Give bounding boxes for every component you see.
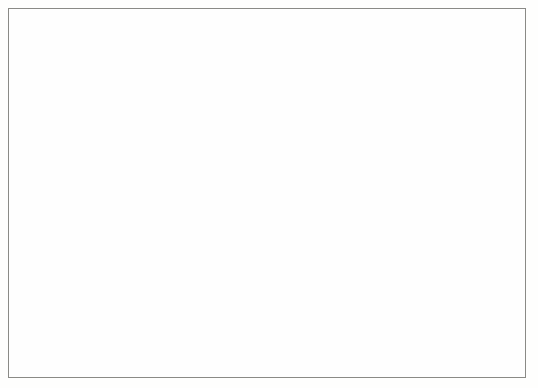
y-axis-label <box>14 88 44 308</box>
figure-border <box>8 8 526 378</box>
figure-root <box>0 0 538 388</box>
